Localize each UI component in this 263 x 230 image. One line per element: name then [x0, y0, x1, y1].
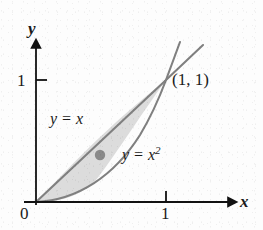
curve-label-parabola-exponent: 2: [155, 144, 161, 156]
x-axis-label: x: [240, 193, 249, 210]
intersection-point-label: (1, 1): [172, 71, 209, 88]
y-tick-label-1: 1: [17, 72, 26, 89]
y-axis-label: y: [28, 20, 36, 37]
x-tick-label-1: 1: [161, 205, 170, 222]
origin-label: 0: [20, 205, 29, 222]
figure-canvas: y x 1 1 0 (1, 1) y = x y = x2: [0, 0, 263, 230]
curve-label-line: y = x: [50, 111, 83, 127]
curve-label-parabola: y = x2: [122, 145, 161, 163]
curve-label-parabola-base: y = x: [122, 146, 155, 163]
graph-svg: [0, 0, 263, 230]
sample-point-dot: [95, 150, 105, 160]
